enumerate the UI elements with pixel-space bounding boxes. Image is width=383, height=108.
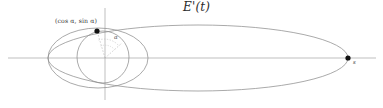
point-right-vertex-s [345,55,350,60]
angle-construction-group [97,31,122,58]
unit-circle [77,31,129,83]
radius-dashed-line [97,31,105,58]
curve-label-e-prime-t: E'(t) [183,1,210,13]
angle-arc-inner-dashed [101,45,115,49]
angle-reference-dashed-line [105,43,122,58]
point-label-cos-sin: (cos α, sin α) [55,18,97,24]
marked-points-group [94,28,350,60]
figure-container: E'(t) (cos α, sin α) α s [0,0,383,108]
angle-label-alpha: α [114,35,118,41]
vertex-label-s: s [353,60,356,65]
point-cos-alpha-sin-alpha [94,28,99,33]
